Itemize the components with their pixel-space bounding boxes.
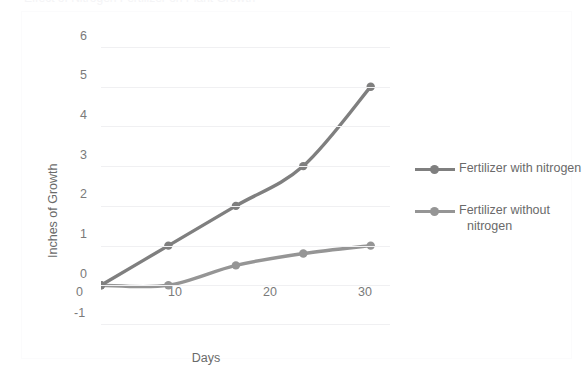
series-2-point [232, 261, 240, 269]
chart-frame[interactable]: Inches of Growth 6 5 4 3 2 1 0 -1 0 10 2… [21, 11, 572, 359]
legend-marker-icon [415, 162, 455, 176]
y-axis-title-label: Inches of Growth [46, 164, 60, 259]
legend-item-with-nitrogen[interactable]: Fertilizer with nitrogen [415, 160, 584, 176]
series-2-point [299, 249, 307, 257]
y-tick-label-neg1: -1 [74, 306, 85, 320]
legend-label-series-2-line2: nitrogen [459, 218, 550, 234]
chart-title-sliver: Effect of Nitrogen Fertilizer on Plant G… [0, 0, 584, 9]
y-tick-label-6: 6 [80, 29, 87, 43]
x-axis-title: Days [22, 348, 390, 366]
gridline-1 [101, 246, 390, 247]
y-tick-label-5: 5 [80, 68, 87, 82]
x-axis-title-label: Days [192, 351, 220, 365]
chart-title-text: Effect of Nitrogen Fertilizer on Plant G… [24, 0, 255, 5]
gridline-4 [101, 126, 390, 127]
gridline-5 [101, 87, 390, 88]
gridline-0 [101, 285, 390, 286]
gridline-2 [101, 206, 390, 207]
y-tick-label-3: 3 [80, 148, 87, 162]
y-tick-label-0: 0 [80, 267, 87, 281]
legend-label-series-2: Fertilizer without nitrogen [455, 202, 550, 234]
legend-label-series-2-line1: Fertilizer without [459, 203, 550, 217]
y-tick-label-2: 2 [80, 187, 87, 201]
plot-area [101, 47, 390, 325]
x-tick-label-0: 0 [76, 285, 83, 299]
legend-item-without-nitrogen[interactable]: Fertilizer without nitrogen [415, 202, 584, 234]
legend-marker-icon [415, 204, 455, 218]
gridline-3 [101, 166, 390, 167]
legend-label-series-1-line1: Fertilizer with nitrogen [459, 161, 581, 175]
legend-label-series-1: Fertilizer with nitrogen [455, 160, 581, 176]
series-1-line [101, 87, 371, 286]
y-axis-title: Inches of Growth [44, 120, 62, 260]
gridline-6 [101, 47, 390, 48]
y-tick-label-1: 1 [80, 227, 87, 241]
chart-legend[interactable]: Fertilizer with nitrogen Fertilizer with… [415, 160, 584, 260]
series-plot [101, 47, 390, 325]
legend-dot-series-2 [430, 207, 439, 216]
legend-dot-series-1 [430, 165, 439, 174]
y-tick-label-4: 4 [80, 108, 87, 122]
gridline-neg1 [101, 324, 390, 325]
